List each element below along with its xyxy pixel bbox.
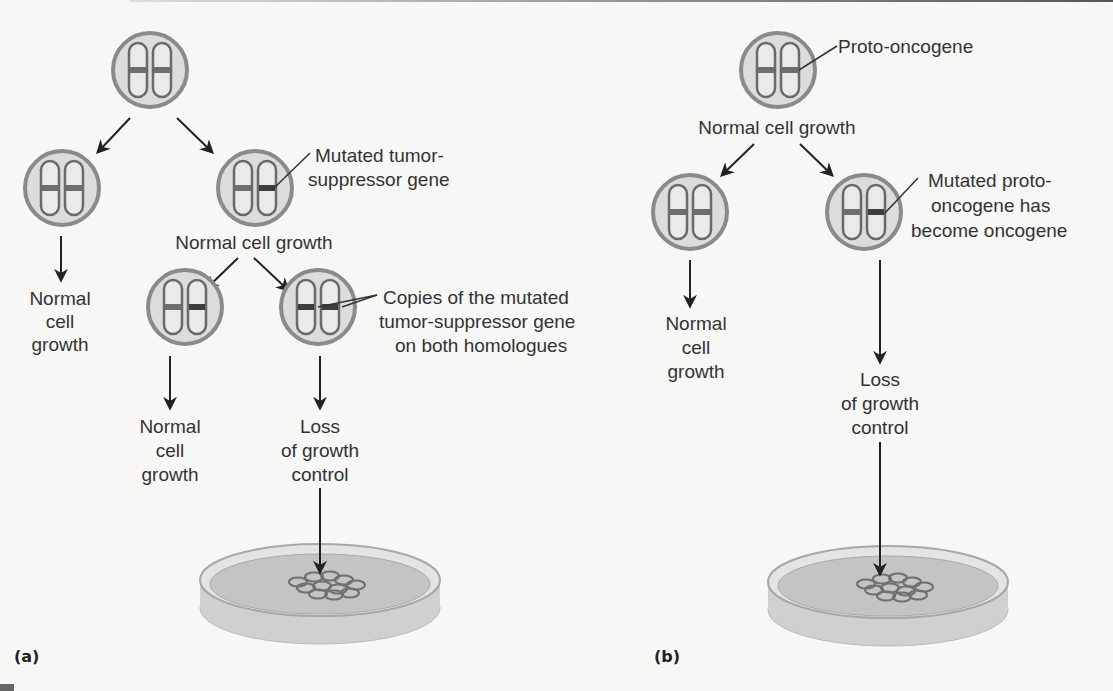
- label-text: cell: [682, 337, 711, 358]
- callout-mutated-proto-line3: become oncogene: [911, 220, 1067, 241]
- cell-proto-oncogene-top: [741, 33, 815, 107]
- arrow-icon: [254, 258, 288, 290]
- panel-label-a: (a): [14, 647, 39, 666]
- callout-mutated-tsg-line2: suppressor gene: [308, 169, 450, 190]
- label-text: of growth: [841, 393, 919, 414]
- label-text: growth: [141, 464, 198, 485]
- cell-oncogene-b: [827, 175, 901, 249]
- cell-normal-left-a: [25, 151, 99, 225]
- label-text: of growth: [281, 440, 359, 461]
- label-normal-cell-growth-a2: Normal: [139, 416, 200, 437]
- arrow-icon: [98, 118, 130, 152]
- callout-proto-oncogene: Proto-oncogene: [838, 36, 973, 57]
- cell-mutated-one-a2: [148, 270, 222, 344]
- arrow-icon: [800, 144, 832, 175]
- label-text: cell: [46, 311, 75, 332]
- label-text: growth: [667, 361, 724, 382]
- arrow-icon: [722, 144, 754, 175]
- callout-mutated-tsg-line1: Mutated tumor-: [315, 145, 444, 166]
- callout-copies-line1: Copies of the mutated: [383, 287, 569, 308]
- callout-mutated-proto-line1: Mutated proto-: [928, 170, 1052, 191]
- label-text: control: [851, 417, 908, 438]
- figure-canvas: Mutated tumor- suppressor gene Normal ce…: [0, 0, 1113, 691]
- panel-a: Mutated tumor- suppressor gene Normal ce…: [14, 33, 575, 666]
- label-loss-growth-control-a: Loss: [300, 416, 340, 437]
- callout-mutated-proto-line2: oncogene has: [931, 195, 1050, 216]
- label-normal-cell-growth-b: Normal: [665, 313, 726, 334]
- label-text: control: [291, 464, 348, 485]
- caption-normal-cell-growth-b: Normal cell growth: [698, 117, 855, 138]
- label-loss-growth-control-b: Loss: [860, 369, 900, 390]
- cell-normal-left-b: [653, 175, 727, 249]
- arrow-icon: [177, 118, 212, 152]
- panel-label-b: (b): [654, 647, 680, 666]
- callout-copies-line3: on both homologues: [395, 335, 567, 356]
- cell-mutated-one-a: [218, 151, 292, 225]
- label-text: cell: [156, 440, 185, 461]
- cell-normal-top-a: [113, 33, 187, 107]
- label-normal-cell-growth-a1: Normal: [29, 288, 90, 309]
- petri-dish-b: [768, 546, 1008, 646]
- caption-normal-cell-growth-a: Normal cell growth: [175, 232, 332, 253]
- callout-copies-line2: tumor-suppressor gene: [379, 311, 575, 332]
- panel-b: Proto-oncogene Normal cell growth Mutate…: [653, 33, 1067, 666]
- label-text: growth: [31, 334, 88, 355]
